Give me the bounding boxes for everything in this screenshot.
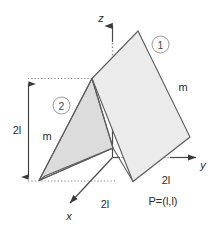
geometry-figure: z y x 1 2 m m 2l 2l 2l P=(l,l) [0, 0, 219, 230]
plate-1 [92, 31, 190, 182]
z-axis-label: z [97, 12, 104, 24]
height-dimension-label: 2l [13, 124, 22, 136]
figure-canvas: z y x 1 2 m m 2l 2l 2l P=(l,l) [0, 0, 219, 230]
y-axis-label: y [199, 159, 207, 171]
plate-1-callout-label: 1 [158, 39, 164, 51]
plate-2-callout-label: 2 [59, 100, 65, 112]
plate-1-surface [92, 31, 190, 182]
plate-2-mass-label: m [42, 130, 51, 142]
x-extent-label: 2l [101, 198, 110, 210]
x-axis-label: x [65, 210, 72, 222]
plate-1-mass-label: m [178, 81, 187, 93]
point-p-label: P=(l,l) [148, 195, 177, 207]
y-extent-label: 2l [162, 174, 171, 186]
